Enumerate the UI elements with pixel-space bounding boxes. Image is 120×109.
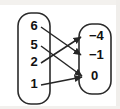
output-value-0: 0 [91, 68, 98, 83]
output-value-minus4: −4 [89, 28, 105, 43]
input-value-5: 5 [30, 37, 37, 52]
bottom-edge-band [0, 106, 120, 109]
output-value-minus1: −1 [89, 47, 104, 62]
diagram-canvas: 6 5 2 1 −4 −1 0 [0, 0, 120, 109]
input-value-1: 1 [30, 76, 37, 91]
right-edge-band [116, 0, 120, 109]
mapping-diagram: 6 5 2 1 −4 −1 0 [0, 0, 120, 109]
top-edge-band [0, 0, 120, 5]
input-value-6: 6 [30, 18, 37, 33]
input-value-2: 2 [30, 54, 37, 69]
